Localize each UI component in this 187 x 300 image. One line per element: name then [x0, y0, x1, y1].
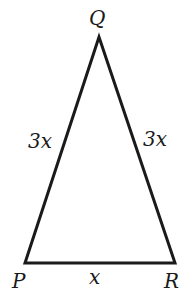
- vertex-label-r: R: [163, 269, 179, 293]
- side-label-pr: x: [89, 265, 100, 289]
- vertex-label-q: Q: [89, 6, 105, 30]
- triangle-diagram: Q P R 3x 3x x: [0, 0, 187, 300]
- side-label-qr: 3x: [143, 127, 167, 151]
- side-label-pq: 3x: [28, 129, 52, 153]
- vertex-label-p: P: [11, 269, 26, 293]
